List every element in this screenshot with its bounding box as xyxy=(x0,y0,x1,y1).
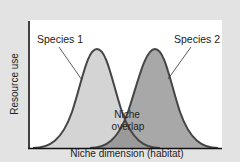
species-1-label: Species 1 xyxy=(37,33,83,45)
species-2-label: Species 2 xyxy=(174,33,220,45)
y-axis-label: Resource use xyxy=(9,53,20,115)
niche-overlap-label-line2: overlap xyxy=(112,121,145,132)
niche-overlap-diagram: Species 1 Species 2 Niche overlap Niche … xyxy=(0,0,240,162)
niche-overlap-label-line1: Niche xyxy=(114,109,140,120)
x-axis-label: Niche dimension (habitat) xyxy=(70,148,183,159)
